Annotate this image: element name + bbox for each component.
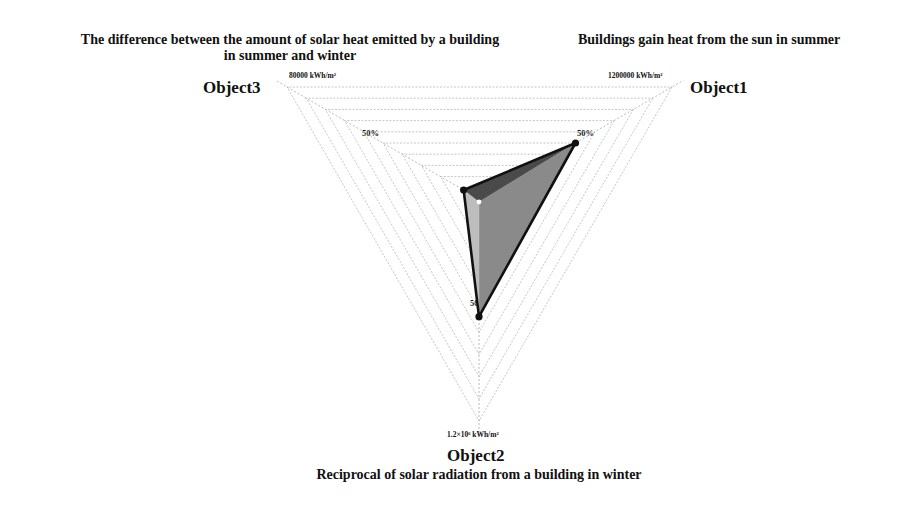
data-point-object2 (475, 313, 482, 320)
axis-title-object2: Reciprocal of solar radiation from a bui… (264, 467, 694, 483)
data-point-object3 (460, 186, 467, 193)
center-marker (477, 200, 482, 205)
axis-label-object2: Object2 (447, 446, 505, 466)
data-point-object1 (572, 139, 579, 146)
tick-object2-max: 1.2×10⁶ kWh/m² (447, 430, 499, 439)
data-polygon (464, 143, 576, 317)
